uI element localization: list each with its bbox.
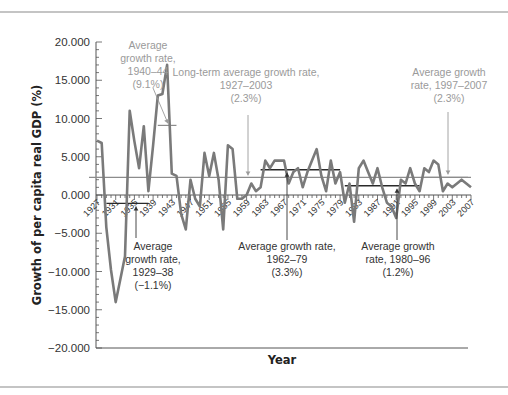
y-tick-label: 5.000 xyxy=(61,151,90,163)
x-tick-label: 2007 xyxy=(455,197,476,218)
x-tick-label: 1999 xyxy=(418,197,439,218)
y-tick-label: −10.000 xyxy=(48,266,90,278)
annotation-text: (2.3%) xyxy=(434,92,465,104)
annotation-text: 1929–38 xyxy=(133,266,174,278)
x-tick-label: 2003 xyxy=(436,197,457,218)
annotation-text: 1927–2003 xyxy=(220,79,273,91)
y-tick-label: 15.000 xyxy=(55,74,90,86)
x-tick-label: 1971 xyxy=(287,197,308,218)
annotation-text: rate, 1997–2007 xyxy=(411,79,488,91)
arrowhead-icon xyxy=(246,171,251,175)
y-tick-label: −20.000 xyxy=(48,342,90,354)
x-tick-label: 1987 xyxy=(362,197,383,218)
annotation-text: (3.3%) xyxy=(272,266,303,278)
annotation: Average growthrate, 1997–2007(2.3%) xyxy=(411,66,488,174)
annotation-text: 1962–79 xyxy=(267,253,308,265)
y-tick-label: −15.000 xyxy=(48,304,90,316)
annotation-text: (2.3%) xyxy=(231,92,262,104)
x-axis-title: Year xyxy=(267,353,297,367)
annotation-text: Long-term average growth rate, xyxy=(172,66,319,78)
annotation-text: 1940–44 xyxy=(128,65,169,77)
arrowhead-icon xyxy=(446,170,451,174)
x-tick-label: 1967 xyxy=(268,197,289,218)
x-tick-label: 1963 xyxy=(249,197,270,218)
x-tick-label: 1979 xyxy=(324,197,345,218)
annotation-text: Average growth rate, xyxy=(238,240,335,252)
annotation-text: growth rate, xyxy=(120,52,175,64)
annotation-text: Average xyxy=(134,240,173,252)
x-tick-label: 1975 xyxy=(306,197,327,218)
annotation: Averagegrowth rate,1929–38(−1.1%) xyxy=(125,206,180,291)
y-axis: 20.00015.00010.0005.0000.000−5.000−10.00… xyxy=(48,36,102,354)
annotation: Long-term average growth rate,1927–2003(… xyxy=(172,66,319,175)
annotation-text: (1.2%) xyxy=(383,266,414,278)
x-tick-label: 1943 xyxy=(156,197,177,218)
y-tick-label: 20.000 xyxy=(55,36,90,48)
y-tick-label: 10.000 xyxy=(55,113,90,125)
y-axis-title: Growth of per capita real GDP (%) xyxy=(30,85,44,306)
annotation-text: Average growth xyxy=(412,66,486,78)
x-tick-label: 1939 xyxy=(137,197,158,218)
annotation-text: (9.1%) xyxy=(133,78,164,90)
annotation-text: rate, 1980–96 xyxy=(366,253,431,265)
x-tick-label: 1947 xyxy=(175,197,196,218)
y-tick-label: 0.000 xyxy=(61,189,90,201)
annotation-text: Average growth xyxy=(361,240,435,252)
x-tick-label: 1995 xyxy=(399,197,420,218)
x-tick-label: 1931 xyxy=(100,197,121,218)
x-tick-label: 1959 xyxy=(231,197,252,218)
annotation-text: Average xyxy=(129,39,168,51)
chart: 20.00015.00010.0005.0000.000−5.000−10.00… xyxy=(0,0,508,395)
y-tick-label: −5.000 xyxy=(55,227,91,239)
annotation-text: growth rate, xyxy=(125,253,180,265)
annotation-text: (−1.1%) xyxy=(134,279,171,291)
